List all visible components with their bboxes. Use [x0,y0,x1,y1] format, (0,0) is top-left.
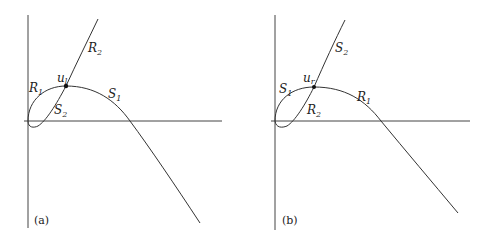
panel-a: R2 R1 ul S2 S1 (a) [24,15,222,228]
label-ul: ul [57,71,68,86]
label-s1-b: S1 [279,82,292,98]
label-r2-a: R2 [87,41,102,57]
label-r1-a: R1 [28,81,43,97]
curve-r1-b [314,87,458,213]
label-r2-b: R2 [306,103,321,119]
panel-label-a: (a) [34,214,49,227]
label-s2-b: S2 [335,41,348,57]
label-r1-b: R1 [356,90,371,106]
figure-canvas: R2 R1 ul S2 S1 (a) S2 S1 ur R2 R1 (b) [0,0,489,239]
panel-b: S2 S1 ur R2 R1 (b) [271,15,470,230]
label-ur: ur [303,71,316,86]
label-s1-a: S1 [108,87,121,103]
panel-label-b: (b) [282,214,298,227]
label-s2-a: S2 [54,103,67,119]
curve-s1-a [66,86,200,223]
